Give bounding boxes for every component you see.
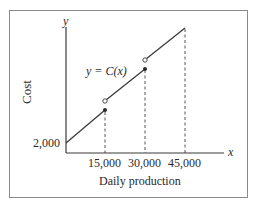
open-point-15000 bbox=[103, 99, 107, 103]
open-point-30000 bbox=[143, 58, 147, 62]
y-axis-var-label: y bbox=[63, 14, 68, 29]
function-label: y = C(x) bbox=[86, 64, 127, 79]
segment-1 bbox=[66, 110, 105, 143]
filled-point-15000 bbox=[103, 108, 107, 112]
y-axis-title: Cost bbox=[19, 80, 35, 104]
x-axis-title: Daily production bbox=[99, 174, 181, 189]
x-tick-30000: 30,000 bbox=[128, 156, 161, 171]
x-axis-var-label: x bbox=[228, 145, 233, 160]
x-tick-15000: 15,000 bbox=[88, 156, 121, 171]
y-tick-2000: 2,000 bbox=[33, 136, 60, 151]
x-tick-45000: 45,000 bbox=[168, 156, 201, 171]
filled-point-30000 bbox=[143, 67, 147, 71]
segment-3 bbox=[146, 28, 185, 59]
